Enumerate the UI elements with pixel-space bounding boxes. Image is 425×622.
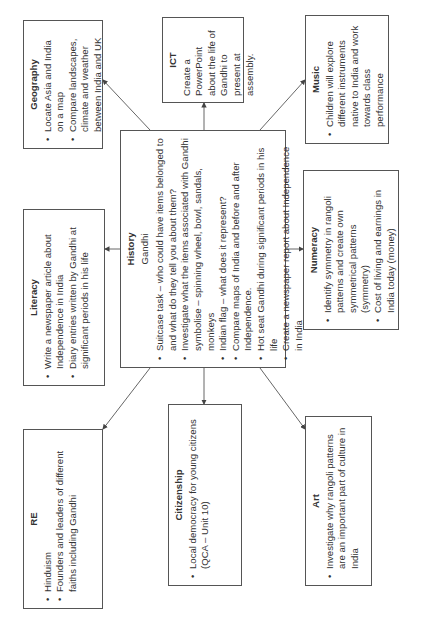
history-subtitle: Gandhi (139, 137, 152, 361)
history-item: Investigate what the items associated wi… (179, 137, 217, 351)
re-item: Hinduism (42, 436, 55, 592)
art-box: Art Investigate why rangoli patterns are… (305, 416, 372, 586)
literacy-list: Write a newspaper article about Independ… (42, 216, 92, 379)
geography-item: Locate Asia and India on a map (42, 27, 67, 132)
numeracy-item: Identify symmetry in rangoli patterns an… (322, 177, 372, 313)
citizenship-list: Local democracy for young citizens (QCA … (187, 411, 212, 579)
art-item: Investigate why rangoli patterns are an … (324, 423, 362, 569)
citizenship-item: Local democracy for young citizens (QCA … (187, 411, 212, 569)
topic-web-diagram: History Gandhi Suitcase task – who could… (0, 0, 425, 622)
geography-item: Compare landscapes, climate and weather … (67, 27, 105, 132)
history-item: Create a newspaper report about Independ… (280, 137, 305, 351)
music-box: Music Children will explore different in… (305, 15, 389, 144)
geography-box: Geography Locate Asia and India on a map… (23, 20, 103, 149)
numeracy-box: Numeracy Identify symmetry in rangoli pa… (303, 170, 399, 330)
literacy-item: Write a newspaper article about Independ… (42, 216, 67, 369)
geography-title: Geography (28, 27, 41, 142)
literacy-box: Literacy Write a newspaper article about… (23, 209, 105, 386)
history-list: Suitcase task – who could have items bel… (154, 137, 305, 361)
geography-list: Locate Asia and India on a map Compare l… (42, 27, 105, 142)
music-list: Children will explore different instrume… (324, 22, 387, 137)
history-item: Suitcase task – who could have items bel… (154, 137, 179, 351)
numeracy-item: Cost of living and earnings in India tod… (372, 177, 397, 313)
connector-geography (103, 80, 150, 130)
citizenship-box: Citizenship Local democracy for young ci… (168, 404, 242, 586)
ict-text: Create a PowerPoint about the life of Ga… (181, 24, 257, 96)
numeracy-list: Identify symmetry in rangoli patterns an… (322, 177, 398, 323)
re-list: Hinduism Founders and leaders of differe… (42, 436, 80, 602)
connector-music (260, 80, 305, 130)
ict-box: ICT Create a PowerPoint about the life o… (162, 17, 244, 103)
ict-title: ICT (167, 24, 180, 96)
literacy-item: Diary entries written by Gandhi at signi… (67, 216, 92, 369)
literacy-title: Literacy (28, 216, 41, 379)
numeracy-title: Numeracy (308, 177, 321, 323)
re-title: RE (28, 436, 41, 602)
art-title: Art (310, 423, 323, 579)
history-item: Hot seat Gandhi during significant perio… (255, 137, 280, 351)
re-item: Founders and leaders of different faiths… (54, 436, 79, 592)
connector-re (103, 368, 150, 429)
history-title: History (125, 137, 138, 361)
connector-art (260, 368, 305, 429)
music-item: Children will explore different instrume… (324, 22, 387, 127)
art-list: Investigate why rangoli patterns are an … (324, 423, 362, 579)
re-box: RE Hinduism Founders and leaders of diff… (23, 429, 103, 609)
history-item: Indian flag – what does it represent? (217, 137, 230, 351)
music-title: Music (310, 22, 323, 137)
citizenship-title: Citizenship (173, 411, 186, 579)
history-item: Compare maps of India and before and aft… (230, 137, 255, 351)
history-box: History Gandhi Suitcase task – who could… (120, 130, 286, 368)
